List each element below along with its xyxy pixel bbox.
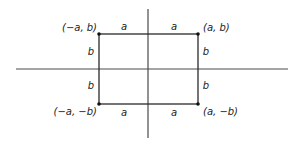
coordinate-rectangle-diagram: (−a, b) (a, b) (−a, −b) (a, −b) a a a a … xyxy=(0,0,302,151)
corner-label-bottom-left: (−a, −b) xyxy=(54,106,97,117)
corner-label-top-right: (a, b) xyxy=(203,22,230,33)
corner-dot-top-left xyxy=(97,32,101,36)
segment-label-left-upper-b: b xyxy=(88,46,94,57)
segment-label-left-lower-b: b xyxy=(88,80,94,91)
segment-label-right-lower-b: b xyxy=(203,80,209,91)
corner-label-bottom-right: (a, −b) xyxy=(203,106,238,117)
segment-label-top-right-a: a xyxy=(171,21,177,32)
corner-label-top-left: (−a, b) xyxy=(62,22,97,33)
segment-label-right-upper-b: b xyxy=(203,46,209,57)
segment-label-top-left-a: a xyxy=(121,21,127,32)
corner-dot-top-right xyxy=(196,32,200,36)
corner-dot-bottom-right xyxy=(196,102,200,106)
segment-label-bottom-left-a: a xyxy=(121,107,127,118)
corner-dot-bottom-left xyxy=(97,102,101,106)
segment-label-bottom-right-a: a xyxy=(171,107,177,118)
